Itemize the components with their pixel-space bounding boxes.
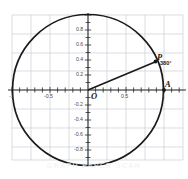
angle-measure-label: 380°: [160, 61, 172, 67]
grid-lines: [12, 15, 183, 160]
x-tick-label-neg-one: -1: [9, 94, 14, 99]
y-tick-label-0-6: 0.6: [76, 42, 83, 47]
scan-watermark: GRAPH PAPER SCAN: [8, 162, 180, 169]
point-label-origin: O: [91, 92, 97, 101]
y-tick-label-neg-0-6: -0.6: [74, 132, 83, 137]
point-label-a: A: [165, 80, 171, 89]
x-tick-label-half: 0.5: [121, 94, 128, 99]
y-tick-label-neg-0-2: -0.2: [74, 102, 83, 107]
y-tick-label-0-2: 0.2: [76, 72, 83, 77]
x-tick-label-neg-half: -0.5: [44, 94, 53, 99]
y-tick-label-0-4: 0.4: [76, 57, 83, 62]
y-tick-label-neg-0-4: -0.4: [74, 117, 83, 122]
x-tick-label-one: 1: [162, 94, 165, 99]
unit-circle-plot-canvas: [0, 0, 188, 179]
y-tick-label-0-8: 0.8: [76, 27, 83, 32]
y-tick-label-neg-0-8: -0.8: [74, 147, 83, 152]
